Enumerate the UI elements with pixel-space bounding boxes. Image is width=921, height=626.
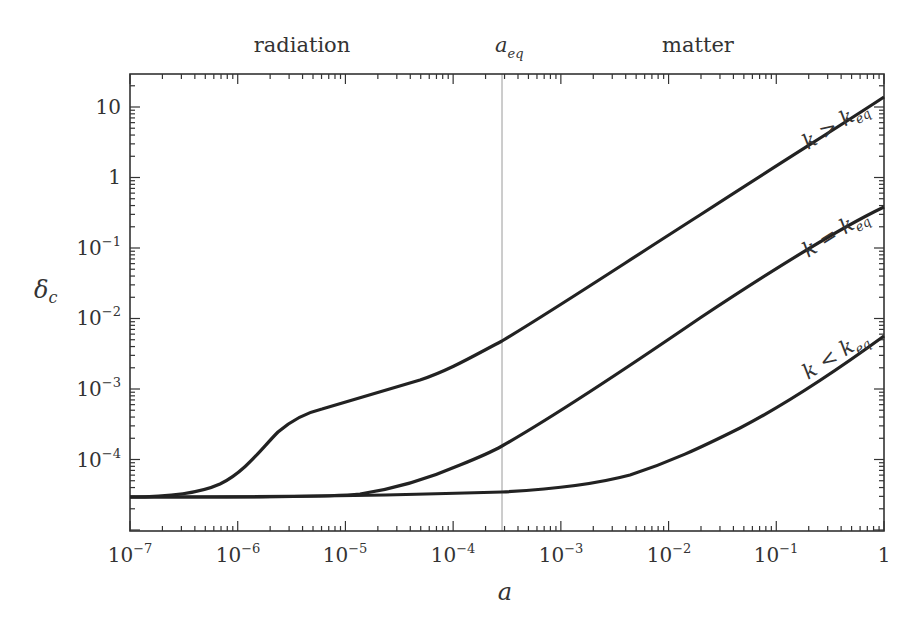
- x-axis-label: a: [498, 578, 512, 606]
- a-eq-label: aeq: [495, 33, 524, 61]
- curve-label-upper: k > keq: [798, 96, 874, 157]
- curve-k-equal-keq: [130, 207, 884, 497]
- svg-text:10−6: 10−6: [216, 541, 261, 567]
- svg-text:10: 10: [96, 95, 121, 119]
- svg-text:10−4: 10−4: [431, 541, 476, 567]
- curve-k-less-keq: [130, 336, 884, 497]
- x-axis-ticks: [130, 74, 884, 531]
- svg-text:10−3: 10−3: [539, 541, 584, 567]
- svg-text:10−5: 10−5: [323, 541, 368, 567]
- y-tick-labels: 10 1 10−1 10−2 10−3 10−4: [76, 95, 121, 472]
- matter-label: matter: [662, 33, 735, 57]
- svg-text:10−2: 10−2: [647, 541, 692, 567]
- curve-k-greater-keq: [130, 97, 884, 497]
- svg-text:10−2: 10−2: [76, 304, 121, 330]
- x-tick-labels: 10−7 10−6 10−5 10−4 10−3 10−2 10−1 1: [108, 541, 891, 567]
- svg-text:10−1: 10−1: [754, 541, 799, 567]
- svg-text:10−3: 10−3: [76, 375, 121, 401]
- chart: radiation aeq matter k > keq k = keq k <…: [0, 0, 921, 626]
- curve-label-lower: k < keq: [798, 326, 874, 387]
- radiation-label: radiation: [254, 33, 351, 57]
- curve-label-middle: k = keq: [798, 204, 874, 265]
- svg-text:10−7: 10−7: [108, 541, 153, 567]
- y-axis-ticks: [130, 86, 884, 530]
- svg-text:10−4: 10−4: [76, 446, 121, 472]
- y-axis-label: δc: [34, 276, 57, 307]
- plot-frame: [130, 74, 884, 531]
- svg-text:1: 1: [878, 543, 891, 567]
- svg-text:10−1: 10−1: [76, 234, 121, 260]
- svg-text:1: 1: [108, 165, 121, 189]
